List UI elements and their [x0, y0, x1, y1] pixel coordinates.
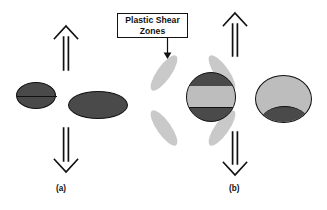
panel-a-up-arrow	[53, 23, 79, 71]
callout-line-2: Zones	[140, 26, 166, 36]
panel-a-label: (a)	[56, 184, 66, 193]
callout-leader-arrow	[160, 37, 176, 60]
figure-canvas: (a) (b) Plastic Shear Zones	[0, 0, 327, 210]
panel-b-banded-circle	[186, 72, 236, 122]
shear-band-line	[17, 96, 57, 97]
banded-circle-lower-edge-line	[186, 107, 236, 109]
panel-b-down-arrow	[222, 131, 248, 178]
panel-b-light-ellipse	[255, 75, 312, 123]
panel-a-small-dark-ellipse	[16, 82, 56, 109]
light-ellipse-basal-cap	[261, 106, 308, 123]
banded-circle-light-band	[186, 86, 236, 107]
panel-b-up-arrow	[222, 10, 248, 57]
plastic-shear-zones-callout: Plastic Shear Zones	[117, 13, 188, 38]
panel-a-large-dark-ellipse	[68, 91, 128, 119]
panel-a-down-arrow	[53, 127, 79, 175]
callout-line-1: Plastic Shear	[125, 15, 180, 25]
panel-b-label: (b)	[229, 184, 239, 193]
shear-zone-lobe-lower-left	[146, 107, 182, 149]
